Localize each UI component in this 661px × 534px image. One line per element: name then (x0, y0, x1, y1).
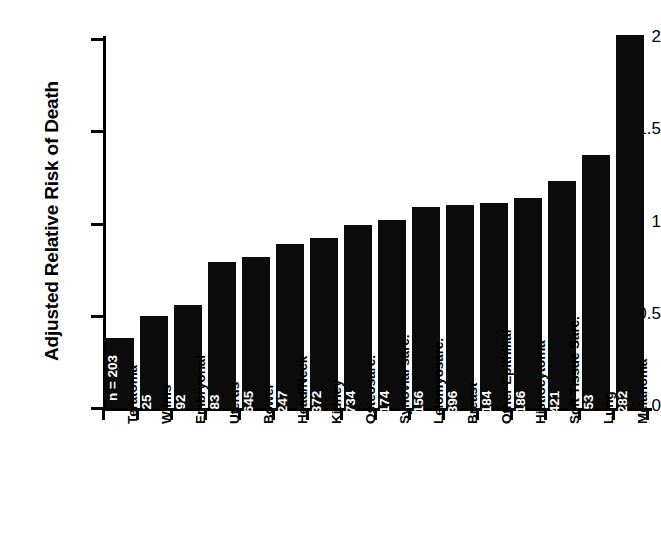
x-axis-category-label: Breast (465, 383, 480, 424)
x-axis-category-label: Other Epithilial (499, 330, 514, 424)
x-axis-category-label: Kidney (329, 380, 344, 424)
bar-sample-size-label: 156 (411, 391, 426, 414)
y-axis-title: Adjusted Relative Risk of Death (41, 61, 63, 381)
bar-sample-size-label: 645 (241, 391, 256, 414)
x-axis-category-label: Bowel (261, 385, 276, 424)
x-axis-category-label: Embryonal (193, 355, 208, 424)
bar-sample-size-label: 184 (479, 391, 494, 414)
x-axis-category-label: Melanoma (635, 359, 650, 424)
x-axis-category-label: Head/Neck (295, 356, 310, 424)
x-axis-category-label: Lung (601, 391, 616, 424)
bar: 282 (616, 35, 644, 408)
x-axis-category-label: Teratoma (125, 365, 140, 424)
x-axis-category-label: Synovial sarc. (397, 335, 412, 424)
bar-sample-size-label: 174 (377, 391, 392, 414)
bar-sample-size-label: n = 203 (105, 355, 120, 401)
bar-sample-size-label: 282 (615, 391, 630, 414)
bar-sample-size-label: 372 (309, 391, 324, 414)
bar-sample-size-label: 186 (513, 391, 528, 414)
bar-sample-size-label: 53 (581, 394, 596, 409)
x-axis-category-label: Wilms (159, 385, 174, 424)
bar-chart-figure: Adjusted Relative Risk of Death 00.511.5… (0, 0, 661, 534)
bar: 53 (582, 155, 610, 408)
bar-sample-size-label: 25 (139, 394, 154, 409)
bar-sample-size-label: 83 (207, 394, 222, 409)
bar-sample-size-label: 92 (173, 394, 188, 409)
x-axis-category-label: Osteosarc. (363, 355, 378, 424)
x-axis-category-label: Leiomyosarc. (431, 338, 446, 424)
x-axis-category-label: Uterus (227, 382, 242, 424)
bar-sample-size-label: 734 (343, 391, 358, 414)
bar-sample-size-label: 247 (275, 391, 290, 414)
bar: 396 (446, 205, 474, 408)
bar-sample-size-label: 396 (445, 391, 460, 414)
x-axis-category-label: Soft Tissue Sarc. (567, 316, 582, 424)
x-axis-category-label: Histiocytoma (533, 340, 548, 424)
x-axis-tick (102, 409, 105, 420)
bar-sample-size-label: 421 (547, 391, 562, 414)
